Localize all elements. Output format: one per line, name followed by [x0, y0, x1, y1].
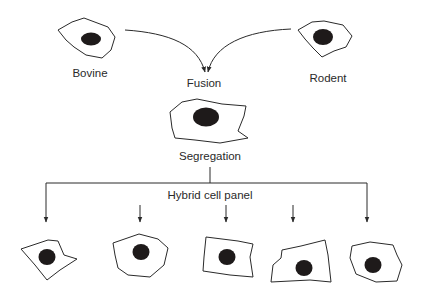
panel-nucleus-4	[296, 260, 313, 276]
panel-nucleus-1	[39, 249, 56, 265]
hybrid-panel-label: Hybrid cell panel	[167, 189, 252, 201]
fusion-label: Fusion	[187, 77, 222, 89]
segregation-label: Segregation	[179, 150, 241, 162]
rodent-label: Rodent	[309, 72, 346, 84]
rodent-fusion-arrow	[208, 29, 291, 72]
panel-nucleus-2	[133, 244, 150, 260]
fused-nucleus	[193, 108, 219, 127]
bovine-nucleus	[81, 33, 101, 46]
rodent-nucleus	[313, 29, 333, 45]
bovine-label: Bovine	[72, 67, 107, 79]
bovine-fusion-arrow	[125, 30, 205, 72]
panel-nucleus-5	[365, 257, 382, 273]
panel-nucleus-3	[219, 249, 236, 265]
